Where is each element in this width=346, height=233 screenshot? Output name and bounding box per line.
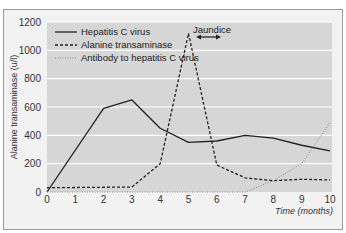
x-axis-ticks: 012345678910 (44, 194, 336, 205)
x-tick-label: 5 (186, 194, 192, 205)
x-tick-label: 9 (299, 194, 305, 205)
x-tick-label: 10 (324, 194, 336, 205)
x-tick-label: 4 (157, 194, 163, 205)
x-tick-label: 0 (44, 194, 50, 205)
x-tick-label: 1 (73, 194, 79, 205)
y-tick-label: 0 (35, 187, 41, 198)
y-axis-label: Alanine transaminase (u/l) (9, 55, 19, 160)
x-tick-label: 2 (101, 194, 107, 205)
y-tick-label: 1000 (19, 45, 42, 56)
y-tick-label: 800 (24, 73, 41, 84)
x-axis-label: Time (months) (275, 206, 333, 216)
x-tick-label: 8 (271, 194, 277, 205)
line-chart: 020040060080010001200 012345678910 Alani… (0, 0, 346, 233)
x-tick-label: 6 (214, 194, 220, 205)
legend-item-alt: Alanine transaminase (81, 39, 172, 50)
x-tick-label: 7 (242, 194, 248, 205)
x-tick-label: 3 (129, 194, 135, 205)
jaundice-label: Jaundice (193, 24, 231, 35)
y-tick-label: 200 (24, 158, 41, 169)
y-tick-label: 400 (24, 130, 41, 141)
legend-item-antibody: Antibody to hepatitis C virus (81, 52, 199, 63)
legend-item-hcv: Hepatitis C virus (81, 26, 150, 37)
y-tick-label: 600 (24, 102, 41, 113)
y-axis-ticks: 020040060080010001200 (19, 17, 42, 198)
y-tick-label: 1200 (19, 17, 42, 28)
